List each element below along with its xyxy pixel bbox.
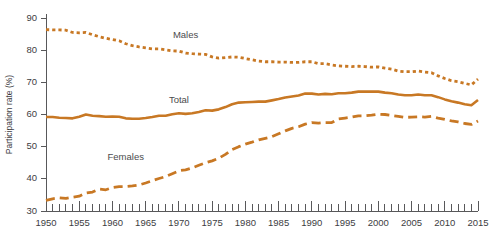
- series-label-females: Females: [108, 151, 145, 162]
- x-tick-label-1965: 1965: [135, 217, 156, 228]
- x-tick-label-2000: 2000: [368, 217, 389, 228]
- y-tick-label-80: 80: [26, 44, 37, 55]
- y-tick-label-90: 90: [26, 12, 37, 23]
- x-axis-tick-labels: 1950195519601965197019751980198519901995…: [35, 217, 488, 228]
- x-axis-group: 1950195519601965197019751980198519901995…: [35, 201, 488, 228]
- series-label-males: Males: [173, 29, 199, 40]
- x-tick-label-1980: 1980: [235, 217, 256, 228]
- x-tick-label-1975: 1975: [202, 217, 223, 228]
- x-tick-label-1990: 1990: [301, 217, 322, 228]
- x-axis-minor-ticks: [53, 204, 472, 211]
- x-tick-label-1960: 1960: [102, 217, 123, 228]
- x-tick-label-2005: 2005: [401, 217, 422, 228]
- x-tick-label-1950: 1950: [35, 217, 56, 228]
- participation-rate-chart: 30405060708090 Participation rate (%) 19…: [0, 0, 493, 238]
- y-axis-tick-labels: 30405060708090: [26, 12, 37, 216]
- series-lines: [46, 30, 478, 201]
- series-label-total: Total: [169, 94, 189, 105]
- x-axis-major-ticks: [46, 201, 478, 211]
- x-tick-label-2015: 2015: [467, 217, 488, 228]
- y-axis-ticks: [41, 18, 46, 211]
- y-axis-group: 30405060708090 Participation rate (%): [4, 12, 46, 216]
- x-tick-label-1970: 1970: [168, 217, 189, 228]
- x-tick-label-1955: 1955: [69, 217, 90, 228]
- chart-canvas: 30405060708090 Participation rate (%) 19…: [0, 0, 493, 238]
- y-tick-label-50: 50: [26, 140, 37, 151]
- x-tick-label-1995: 1995: [335, 217, 356, 228]
- y-tick-label-30: 30: [26, 205, 37, 216]
- y-tick-label-70: 70: [26, 76, 37, 87]
- series-line-males: [46, 30, 478, 85]
- y-tick-label-40: 40: [26, 172, 37, 183]
- x-tick-label-2010: 2010: [434, 217, 455, 228]
- y-axis-title: Participation rate (%): [4, 75, 14, 155]
- y-tick-label-60: 60: [26, 108, 37, 119]
- series-line-total: [46, 92, 478, 119]
- x-tick-label-1985: 1985: [268, 217, 289, 228]
